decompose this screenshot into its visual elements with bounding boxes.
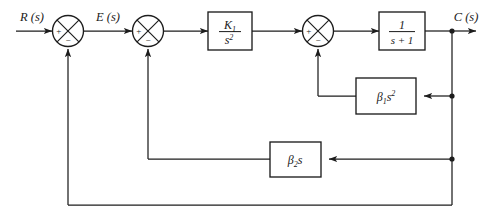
- beta2-feedback-tap-dot: [449, 156, 454, 161]
- summing-junction-2: + −: [133, 16, 164, 47]
- output-tap-dot: [449, 28, 454, 33]
- summing-junction-2-bottom-sign: −: [145, 35, 150, 45]
- lag-block-denominator: s + 1: [391, 34, 414, 46]
- error-signal-label: E (s): [95, 10, 120, 24]
- summing-junction-2-left-sign: +: [136, 26, 141, 36]
- input-signal-label: R (s): [19, 10, 44, 24]
- beta1-feedback-tap-dot: [449, 93, 454, 98]
- transfer-function-block-1-over-s-plus-1[interactable]: 1 s + 1: [379, 12, 425, 50]
- feedback-block-beta2-s[interactable]: β2s: [270, 142, 321, 177]
- summing-junction-3-left-sign: +: [306, 26, 311, 36]
- summing-junction-3: + −: [303, 16, 334, 47]
- outer-loop-wires: [68, 49, 452, 205]
- transfer-function-block-k1-over-s-squared[interactable]: K1 s2: [208, 12, 252, 50]
- block-diagram-canvas: + − + − + − K1 s2: [0, 0, 484, 220]
- summing-junction-1: + −: [53, 16, 84, 47]
- lag-block-numerator: 1: [399, 18, 405, 32]
- feedback-block-beta1-s-squared[interactable]: β1s2: [356, 78, 416, 114]
- summing-junction-3-bottom-sign: −: [315, 35, 320, 45]
- summing-junction-1-bottom-sign: −: [65, 35, 70, 45]
- summing-junction-1-left-sign: +: [56, 26, 61, 36]
- output-signal-label: C (s): [454, 10, 479, 24]
